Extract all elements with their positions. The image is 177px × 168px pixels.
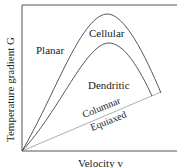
label-planar: Planar — [36, 44, 64, 56]
morphology-diagram: Planar Cellular Dendritic Columnar Equia… — [0, 0, 177, 168]
label-cellular: Cellular — [89, 27, 125, 39]
x-axis-label: Velocity v — [78, 157, 123, 168]
label-dendritic: Dendritic — [88, 79, 130, 91]
cellular-dendritic-boundary — [22, 43, 152, 151]
y-axis-label: Temperature gradient G — [4, 37, 16, 142]
